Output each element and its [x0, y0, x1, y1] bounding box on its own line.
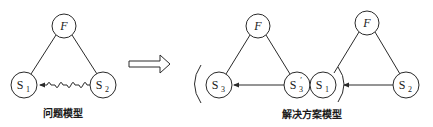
node-s2: S 2: [90, 72, 116, 98]
node-s1: S 1: [11, 72, 37, 98]
svg-text:2: 2: [408, 85, 412, 94]
svg-text:2: 2: [105, 85, 109, 94]
svg-text:F: F: [362, 16, 371, 30]
node-s3-prime: S 3 ′: [284, 72, 310, 98]
solution-model-left: F S 3 S 3 ′: [195, 14, 311, 103]
svg-text:S: S: [212, 78, 219, 92]
node-s3: S 3: [206, 72, 232, 98]
edge-f-s2: [72, 35, 97, 74]
svg-text:1: 1: [26, 85, 30, 94]
node-s1: S 1: [310, 72, 336, 98]
svg-text:F: F: [59, 19, 68, 33]
bracket-right: [338, 67, 344, 102]
edge-f-s2: [375, 32, 400, 74]
svg-text:1: 1: [325, 85, 329, 94]
svg-text:S: S: [17, 78, 24, 92]
svg-text:3: 3: [299, 85, 303, 94]
edge-f-s3: [226, 35, 250, 74]
problem-model: F S 1 S 2: [11, 14, 116, 98]
edge-f-s1: [334, 32, 359, 73]
bracket-left: [195, 65, 202, 103]
edge-f-s3prime: [266, 35, 290, 74]
node-f: F: [52, 14, 76, 38]
solution-model-right: F S 1 S 2: [310, 11, 419, 102]
svg-text:′: ′: [300, 76, 302, 85]
node-f: F: [355, 11, 379, 35]
svg-text:F: F: [253, 19, 262, 33]
svg-text:S: S: [316, 78, 323, 92]
solution-model-caption: 解决方案模型: [282, 106, 342, 121]
problem-model-caption: 问题模型: [43, 105, 83, 120]
edge-f-s1: [31, 35, 56, 74]
node-f: F: [246, 14, 270, 38]
hollow-right-arrow-icon: [129, 55, 170, 73]
svg-text:S: S: [96, 78, 103, 92]
svg-text:S: S: [399, 78, 406, 92]
svg-text:3: 3: [221, 85, 225, 94]
svg-text:S: S: [290, 78, 297, 92]
wavy-arrow-s2-s1: [40, 83, 90, 88]
node-s2: S 2: [393, 72, 419, 98]
